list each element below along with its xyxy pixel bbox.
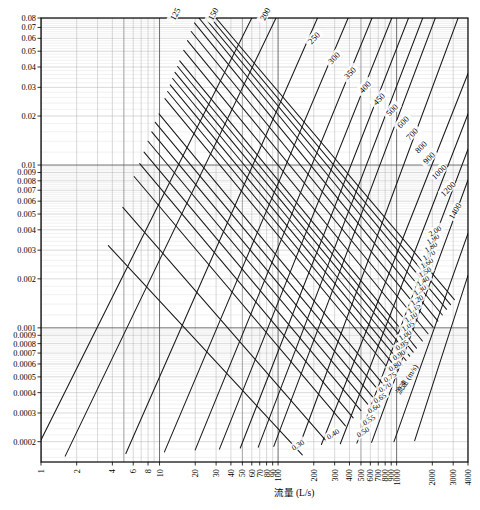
x-tick-label: 6 [129,469,138,473]
y-tick-label: 0.03 [21,83,36,92]
y-tick-label: 0.003 [17,246,36,255]
y-tick-label: 0.007 [17,186,36,195]
x-tick-label: 1 [37,469,46,473]
x-tick-label: 200 [310,469,319,481]
x-tick-label: 10 [156,469,165,477]
x-tick-label: 100 [274,469,283,481]
y-tick-label: 0.0008 [13,340,36,349]
y-tick-label: 0.02 [21,112,36,121]
x-tick-label: 4000 [464,469,473,486]
y-tick-label: 0.0002 [13,438,36,447]
y-tick-label: 0.08 [21,14,36,23]
y-tick-label: 0.006 [17,197,36,206]
x-tick-label: 2 [73,469,82,473]
y-tick-label: 0.0005 [13,373,36,382]
y-tick-label: 0.004 [17,226,37,235]
y-tick-label: 0.06 [21,34,36,43]
x-tick-label: 40 [227,469,236,477]
x-tick-label: 2000 [428,469,437,486]
y-tick-label: 0.05 [21,47,36,56]
nomogram-figure: 0.080.070.060.050.040.030.020.010.0090.0… [0,0,480,510]
y-tick-label: 0.005 [17,210,36,219]
y-tick-label: 0.0006 [13,360,36,369]
nomogram-svg: 0.080.070.060.050.040.030.020.010.0090.0… [0,0,480,510]
x-tick-label: 20 [191,469,200,477]
x-tick-label: 50 [238,469,247,477]
y-tick-label: 0.002 [17,275,36,284]
y-tick-label: 0.0003 [13,409,36,418]
x-tick-label: 3000 [449,469,458,486]
y-tick-label: 0.008 [17,177,36,186]
x-tick-label: 400 [345,469,354,481]
x-tick-label: 8 [144,469,153,473]
x-tick-label: 30 [212,469,221,477]
y-tick-label: 0.0004 [13,389,37,398]
x-tick-label: 500 [357,469,366,481]
x-tick-label: 300 [331,469,340,481]
y-tick-label: 0.04 [21,63,36,72]
x-axis-title: 流量 (L/s) [274,487,315,499]
y-tick-label: 0.0007 [13,349,36,358]
x-tick-label: 1000 [393,469,402,486]
y-tick-label: 0.07 [21,23,36,32]
